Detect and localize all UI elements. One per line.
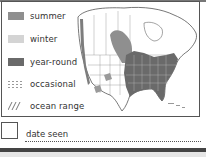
legend-item-winter: winter <box>8 33 57 45</box>
legend-label: winter <box>30 34 57 44</box>
legend-item-ocean-range: ocean range <box>8 100 84 112</box>
date-seen-label: date seen <box>26 129 68 139</box>
legend-label: occasional <box>30 79 76 89</box>
legend-item-year-round: year-round <box>8 56 77 68</box>
year-round-swatch-icon <box>8 58 24 66</box>
bottom-shadow <box>0 152 206 157</box>
legend-label: year-round <box>30 57 77 67</box>
year-round-range <box>124 51 178 101</box>
range-map-card: summer winter year-round occasional <box>1 1 200 117</box>
range-map <box>74 5 200 117</box>
legend-item-occasional: occasional <box>8 78 76 90</box>
winter-swatch-icon <box>8 35 24 43</box>
ocean-range-hatch-icon <box>8 102 24 110</box>
legend-item-summer: summer <box>8 10 66 22</box>
date-seen-line[interactable] <box>25 141 201 142</box>
occasional-pattern-icon <box>8 80 24 88</box>
legend-label: summer <box>30 11 66 21</box>
caribbean-islands <box>168 103 185 108</box>
date-seen-checkbox[interactable] <box>1 122 18 139</box>
summer-swatch-icon <box>8 12 24 20</box>
